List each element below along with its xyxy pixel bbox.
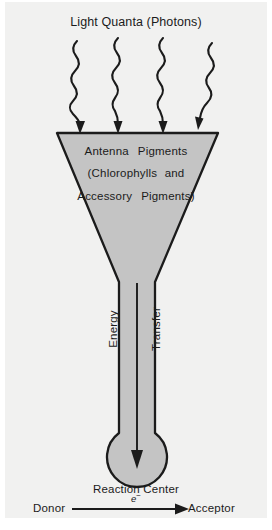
transfer-label: Transfer xyxy=(151,294,165,364)
antenna-word-chlorophylls: (Chlorophylls xyxy=(88,167,158,179)
antenna-word-pigments: Pigments xyxy=(138,145,188,157)
figure-title: Light Quanta (Photons) xyxy=(0,16,272,29)
photon-wavy-arrow-3 xyxy=(157,38,165,124)
donor-label: Donor xyxy=(33,503,65,515)
antenna-pigments-line-1: AntennaPigments xyxy=(0,146,272,158)
photon-wavy-arrow-1 xyxy=(70,41,80,124)
photon-wavy-arrow-2 xyxy=(112,38,120,124)
acceptor-label: Acceptor xyxy=(188,503,235,515)
figure-graphics xyxy=(0,0,272,530)
electron-transfer-arrowhead xyxy=(175,504,189,515)
photon-wavy-arrow-4 xyxy=(200,43,214,118)
antenna-word-and: and xyxy=(165,167,185,179)
antenna-pigments-line-2: (Chlorophylls and xyxy=(0,168,272,180)
antenna-word-antenna: Antenna xyxy=(85,145,129,157)
antenna-word-accessory: Accessory xyxy=(77,190,132,202)
photon-arrowhead-4 xyxy=(195,117,204,131)
electron-charge-sign: − xyxy=(136,491,141,500)
energy-label: Energy xyxy=(108,299,122,359)
photosynthesis-antenna-funnel-figure: Light Quanta (Photons) AntennaPigments (… xyxy=(0,0,272,530)
antenna-pigments-line-3: AccessoryPigments) xyxy=(0,191,272,203)
antenna-word-pigments-close: Pigments) xyxy=(141,190,195,202)
